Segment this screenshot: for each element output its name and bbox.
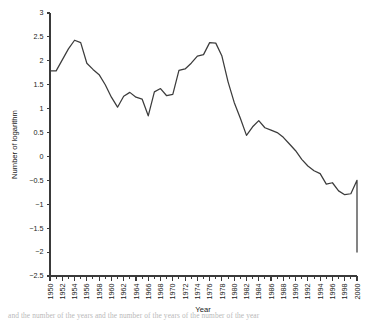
y-tick-label: 0.5 — [34, 128, 44, 137]
x-tick-label: 1952 — [58, 284, 67, 300]
y-tick-label: −2 — [35, 247, 43, 256]
caption-strip: and the number of the years and the numb… — [0, 309, 376, 323]
x-tick-label: 1964 — [132, 284, 141, 300]
x-tick-label: 1972 — [181, 284, 190, 300]
x-tick-label: 1980 — [230, 284, 239, 300]
y-tick-label: −2.5 — [29, 271, 43, 280]
x-tick-label: 1974 — [193, 284, 202, 300]
x-tick-label: 1978 — [218, 284, 227, 300]
x-tick-label: 1992 — [303, 284, 312, 300]
x-tick-label: 1996 — [328, 284, 337, 300]
y-tick-label: 2 — [40, 56, 44, 65]
x-tick-label: 1968 — [156, 284, 165, 300]
x-tick-label: 1966 — [144, 284, 153, 300]
y-tick-label: 3 — [40, 8, 44, 17]
x-tick-label: 1956 — [82, 284, 91, 300]
y-tick-label: 1.5 — [34, 80, 44, 89]
x-tick-label: 2000 — [353, 284, 362, 300]
y-tick-label: −1.5 — [29, 224, 43, 233]
chart-figure: 32.521.510.50−0.5−1−1.5−2−2.5 Number of … — [0, 0, 376, 323]
y-axis-title: Number of logarithm — [10, 110, 19, 179]
y-tick-label: 0 — [40, 152, 44, 161]
y-tick-label: 1 — [40, 104, 44, 113]
x-tick-label: 1970 — [168, 284, 177, 300]
x-tick-label: 1986 — [267, 284, 276, 300]
y-axis: 32.521.510.50−0.5−1−1.5−2−2.5 Number of … — [10, 8, 50, 280]
x-tick-label: 1976 — [205, 284, 214, 300]
x-tick-label: 1998 — [340, 284, 349, 300]
series-line-number-of-logarithm — [50, 40, 357, 252]
x-tick-label: 1960 — [107, 284, 116, 300]
y-tick-label: −1 — [35, 200, 43, 209]
y-tick-label: 2.5 — [34, 32, 44, 41]
x-axis-tick-labels: 1950195219541956195819601962196419661968… — [46, 284, 362, 300]
x-tick-label: 1994 — [316, 284, 325, 300]
x-tick-label: 1954 — [70, 284, 79, 300]
x-tick-label: 1958 — [95, 284, 104, 300]
y-tick-label: −0.5 — [29, 176, 43, 185]
x-tick-label: 1990 — [291, 284, 300, 300]
data-series — [50, 40, 357, 252]
caption-text: and the number of the years and the numb… — [0, 309, 376, 323]
x-tick-label: 1950 — [46, 284, 55, 300]
x-tick-label: 1988 — [279, 284, 288, 300]
y-axis-tick-labels: 32.521.510.50−0.5−1−1.5−2−2.5 — [29, 8, 43, 280]
x-tick-label: 1982 — [242, 284, 251, 300]
x-tick-label: 1962 — [119, 284, 128, 300]
x-tick-label: 1984 — [254, 284, 263, 300]
line-chart: 32.521.510.50−0.5−1−1.5−2−2.5 Number of … — [0, 0, 376, 323]
